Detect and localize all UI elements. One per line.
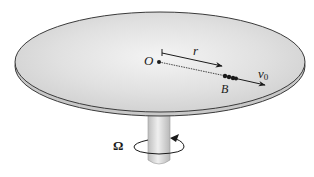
label-radius: r <box>193 44 198 57</box>
label-velocity: v0 <box>258 67 268 80</box>
rotation-arrowhead-icon <box>170 134 179 142</box>
rotating-disk-diagram: O r B v0 Ω <box>0 0 314 177</box>
label-origin: O <box>144 54 153 67</box>
origin-point <box>157 60 161 64</box>
label-velocity-subscript: 0 <box>264 72 269 82</box>
label-bead: B <box>221 83 228 95</box>
diagram-canvas <box>0 0 314 177</box>
label-angular-velocity: Ω <box>113 139 123 152</box>
label-velocity-symbol: v <box>258 66 264 81</box>
